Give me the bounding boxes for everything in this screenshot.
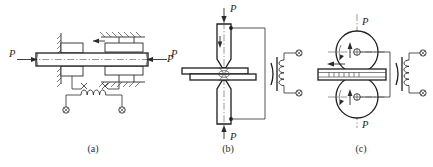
support-lower-left xyxy=(57,66,61,87)
force-label-top-group: P xyxy=(221,3,237,23)
horizontal-bar xyxy=(30,53,154,66)
panel-a: P P xyxy=(8,32,178,155)
force-label-bottom-group: P xyxy=(221,125,237,142)
terminal-top xyxy=(420,50,426,56)
force-label-top-group: P xyxy=(361,16,369,27)
electrode-lower xyxy=(217,78,231,126)
force-label-side: P xyxy=(166,53,174,64)
panel-c: P xyxy=(318,14,426,155)
support-upper-right xyxy=(93,32,145,52)
engineering-figure: P P xyxy=(0,0,433,167)
panel-b-caption: (b) xyxy=(222,143,234,155)
panel-a-caption: (a) xyxy=(87,143,98,155)
coil-core xyxy=(396,57,402,91)
panel-c-caption: (c) xyxy=(355,143,366,155)
collar-upper-left xyxy=(61,43,83,53)
force-label-bottom: P xyxy=(229,131,237,142)
electrode-upper xyxy=(217,22,231,70)
terminal-top xyxy=(296,50,302,56)
support-lower-right xyxy=(99,66,145,87)
terminal-bottom xyxy=(420,90,426,96)
terminal-right xyxy=(119,107,125,113)
terminal-left xyxy=(63,107,69,113)
force-label-bottom: P xyxy=(361,119,369,130)
terminal-bottom xyxy=(296,90,302,96)
sensing-coil xyxy=(66,83,122,107)
force-label-top: P xyxy=(361,16,369,27)
force-label-left: P xyxy=(8,48,16,59)
coil-wiring xyxy=(72,76,119,89)
force-label-top: P xyxy=(229,3,237,14)
figure-container: P P xyxy=(0,0,433,167)
collar-lower-left xyxy=(61,66,83,76)
sensing-coil xyxy=(279,53,296,93)
coil-core xyxy=(271,57,277,91)
sensing-coil xyxy=(404,53,420,93)
panel-b: P xyxy=(166,3,302,155)
force-label-left-group: P xyxy=(8,48,38,62)
